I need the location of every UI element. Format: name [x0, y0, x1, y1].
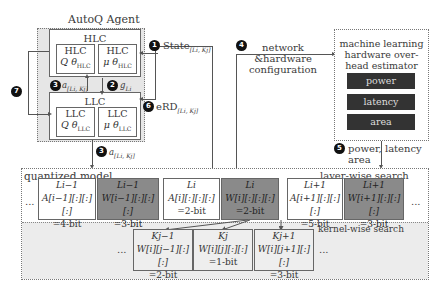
kernel-bits: =3-bit — [255, 269, 313, 282]
kernel-ellipsis-left: ... — [117, 244, 127, 255]
kernel-head: Kj−1 — [134, 230, 192, 243]
kernel-head: Kj+1 — [255, 230, 313, 243]
kernel-ellipsis-right: ... — [319, 244, 329, 255]
kernel-body: W[i][j][:][:] — [194, 243, 252, 256]
kernel-bits: =1-bit — [194, 256, 252, 269]
kernel-body: W[i][j+1][:][:] — [255, 243, 313, 269]
kernel-head: Kj — [194, 230, 252, 243]
kernel-cell: Kj+1 W[i][j+1][:][:] =3-bit — [254, 229, 314, 271]
kernel-cell: Kj−1 W[i][j−1][:][:] =2-bit — [133, 229, 193, 271]
kernel-cell: Kj W[i][j][:][:] =1-bit — [193, 229, 253, 271]
kernel-bits: =2-bit — [134, 269, 192, 282]
kernel-body: W[i][j−1][:][:] — [134, 243, 192, 269]
